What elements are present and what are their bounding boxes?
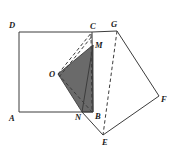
vertex-label-A: A [9, 114, 15, 123]
vertex-label-G: G [111, 20, 117, 29]
vertex-label-E: E [102, 138, 108, 147]
geometry-figure: D C G M O F A N B E [0, 0, 176, 153]
vertex-label-B: B [95, 112, 101, 121]
edge-G-F [117, 31, 159, 96]
edge-C-G [92, 31, 117, 32]
vertex-label-N: N [75, 113, 81, 122]
geometry-canvas [0, 0, 176, 153]
edge-F-E [103, 96, 159, 135]
vertex-label-F: F [161, 95, 167, 104]
vertex-label-D: D [9, 21, 15, 30]
vertex-label-O: O [49, 70, 55, 79]
dashed-G-E [103, 31, 117, 135]
vertex-label-M: M [95, 41, 103, 50]
vertex-label-C: C [90, 22, 96, 31]
